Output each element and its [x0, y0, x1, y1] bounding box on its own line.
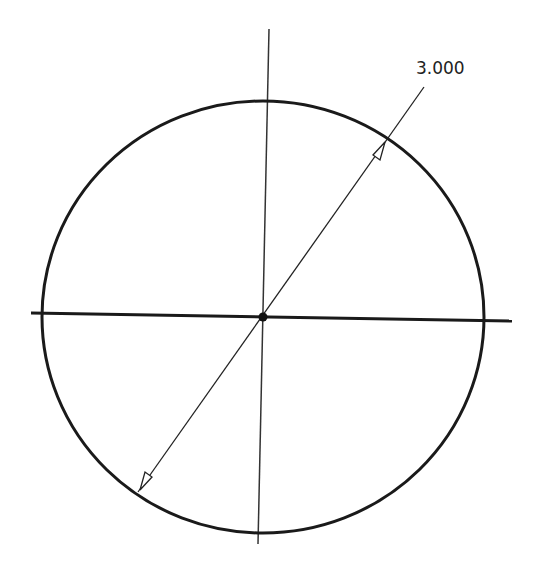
center-point[interactable]	[259, 313, 268, 322]
diameter-dimension-value[interactable]: 3.000	[416, 58, 465, 78]
vertical-centerline[interactable]	[258, 29, 269, 544]
horizontal-centerline[interactable]	[31, 313, 512, 321]
sketch-canvas[interactable]	[0, 0, 534, 566]
